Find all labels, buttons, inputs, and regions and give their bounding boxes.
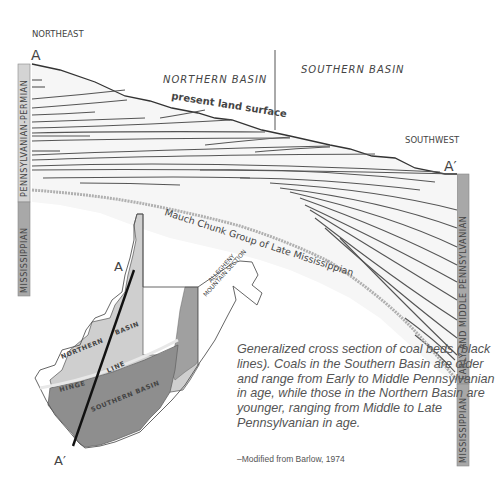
southern-basin-label: SOUTHERN BASIN — [301, 64, 405, 75]
northeast-label: NORTHEAST — [32, 29, 85, 39]
map-end-label: A′ — [54, 453, 66, 468]
figure-credit: –Modified from Barlow, 1974 — [237, 454, 345, 464]
left-column-upper-label: PENNSYLVANIAN-PERMIAN — [20, 80, 29, 197]
map-start-label: A — [114, 259, 123, 274]
left-column-lower-label: MISSISSIPPIAN — [20, 227, 29, 293]
northern-basin-label: NORTHERN BASIN — [163, 74, 267, 85]
section-start-label: A — [31, 47, 41, 63]
west-virginia-map: A A′ NORTHERN BASIN SOUTHERN BASIN HINGE… — [35, 214, 262, 468]
southwest-label: SOUTHWEST — [405, 135, 460, 145]
left-strat-column: PENNSYLVANIAN-PERMIAN MISSISSIPPIAN — [18, 64, 30, 296]
section-end-label: A′ — [444, 158, 457, 174]
figure-caption: Generalized cross section of coal beds (… — [237, 342, 495, 431]
